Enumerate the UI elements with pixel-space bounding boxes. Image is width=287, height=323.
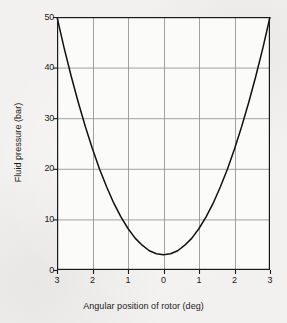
y-axis-tick-label: 40: [34, 63, 54, 72]
x-axis-tick-label: 0: [156, 276, 172, 285]
x-axis-tick-labels: 3210123: [57, 276, 270, 290]
chart-figure: 01020304050 3210123 Angular position of …: [0, 0, 287, 323]
y-axis-tick-label: 30: [34, 114, 54, 123]
plot-background: [57, 17, 270, 270]
x-axis-tick-label: 2: [85, 276, 101, 285]
y-axis-tick-label: 50: [34, 13, 54, 22]
y-axis-title: Fluid pressure (bar): [13, 63, 24, 223]
x-axis-tick-label: 3: [262, 276, 278, 285]
x-axis-title: Angular position of rotor (deg): [0, 301, 287, 312]
plot-area: [57, 17, 270, 270]
plot-svg: [51, 17, 276, 278]
y-axis-tick-label: 20: [34, 164, 54, 173]
x-axis-tick-label: 1: [191, 276, 207, 285]
y-axis-tick-labels: 01020304050: [30, 0, 54, 323]
x-axis-tick-label: 1: [120, 276, 136, 285]
x-axis-tick-label: 3: [49, 276, 65, 285]
y-axis-tick-label: 0: [34, 266, 54, 275]
x-axis-tick-label: 2: [227, 276, 243, 285]
y-axis-tick-label: 10: [34, 215, 54, 224]
